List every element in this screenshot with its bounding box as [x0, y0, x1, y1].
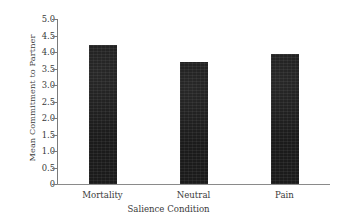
plot-area — [57, 19, 330, 185]
y-axis-spine — [57, 19, 58, 185]
y-axis-tick-mark — [52, 69, 57, 70]
bar-mortality — [89, 45, 117, 184]
y-axis-tick-mark — [52, 85, 57, 86]
x-axis-category-label: Pain — [240, 190, 330, 200]
x-axis-category-label: Neutral — [149, 190, 239, 200]
bar-neutral — [180, 62, 208, 184]
y-axis-tick-mark — [52, 118, 57, 119]
y-axis-tick-mark — [52, 168, 57, 169]
y-axis-tick-mark — [52, 102, 57, 103]
y-axis-tick-mark — [52, 19, 57, 20]
y-axis-tick-mark — [52, 135, 57, 136]
y-axis-tick-mark — [52, 52, 57, 53]
y-axis-tick-mark — [52, 184, 57, 185]
bar-chart-figure: Mean Commitment to Partner 00.51.01.52.0… — [0, 0, 337, 224]
y-axis-tick-mark — [52, 36, 57, 37]
y-axis-tick-mark — [52, 151, 57, 152]
x-axis-title: Salience Condition — [0, 204, 337, 214]
bar-pain — [271, 54, 299, 184]
y-axis-tick-labels: 00.51.01.52.02.53.03.54.04.55.0 — [29, 0, 55, 224]
x-axis-category-label: Mortality — [58, 190, 148, 200]
x-axis-spine — [57, 184, 330, 185]
